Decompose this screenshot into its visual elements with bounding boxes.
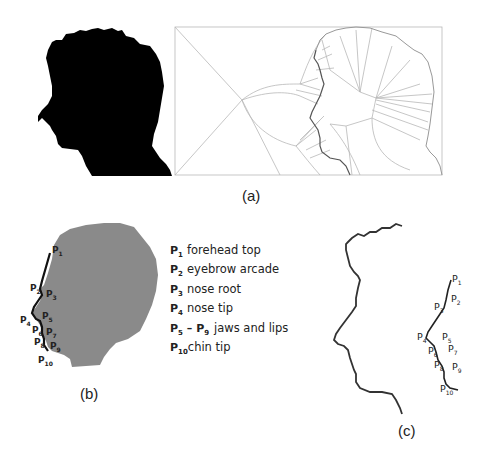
panel-b-graphics: P1 P2 P3 P4 P5 P6 P7 P8 P9 P10 [0, 215, 170, 385]
panel-a-graphics [0, 0, 485, 210]
legend-item: P2 eyebrow arcade [170, 262, 288, 281]
legend-item: P4 nose tip [170, 301, 288, 320]
svg-text:P8: P8 [434, 359, 444, 372]
black-head-silhouette [38, 28, 172, 176]
panel-c-landmark-labels: P1 P2 P3 P4 P5 P6 P7 P8 P9 P10 [417, 273, 462, 396]
panel-c: P1 P2 P3 P4 P5 P6 P7 P8 P9 P10 (c) [300, 210, 485, 459]
svg-text:P2: P2 [30, 283, 41, 295]
extracted-profile-contour [334, 224, 402, 414]
voronoi-diagram [175, 27, 442, 175]
legend-item: P5 – P9 jaws and lips [170, 321, 288, 340]
svg-text:P2: P2 [451, 293, 461, 306]
landmark-legend: P1 forehead top P2 eyebrow arcade P3 nos… [170, 243, 288, 359]
panel-c-graphics: P1 P2 P3 P4 P5 P6 P7 P8 P9 P10 [300, 210, 485, 459]
legend-item: P10 chin tip [170, 340, 288, 359]
panel-b-caption: (b) [80, 385, 98, 402]
legend-item: P3 nose root [170, 282, 288, 301]
svg-text:P6: P6 [428, 345, 438, 358]
svg-text:P1: P1 [452, 273, 462, 286]
panel-a-caption: (a) [242, 187, 260, 204]
svg-text:P3: P3 [434, 301, 444, 314]
svg-text:P10: P10 [38, 355, 53, 367]
legend-item: P1 forehead top [170, 243, 288, 262]
svg-text:P7: P7 [448, 343, 458, 356]
svg-text:P4: P4 [417, 331, 427, 344]
panel-c-caption: (c) [398, 422, 416, 439]
svg-text:P9: P9 [452, 361, 462, 374]
panel-a: (a) [0, 0, 485, 210]
svg-text:P4: P4 [20, 315, 31, 327]
